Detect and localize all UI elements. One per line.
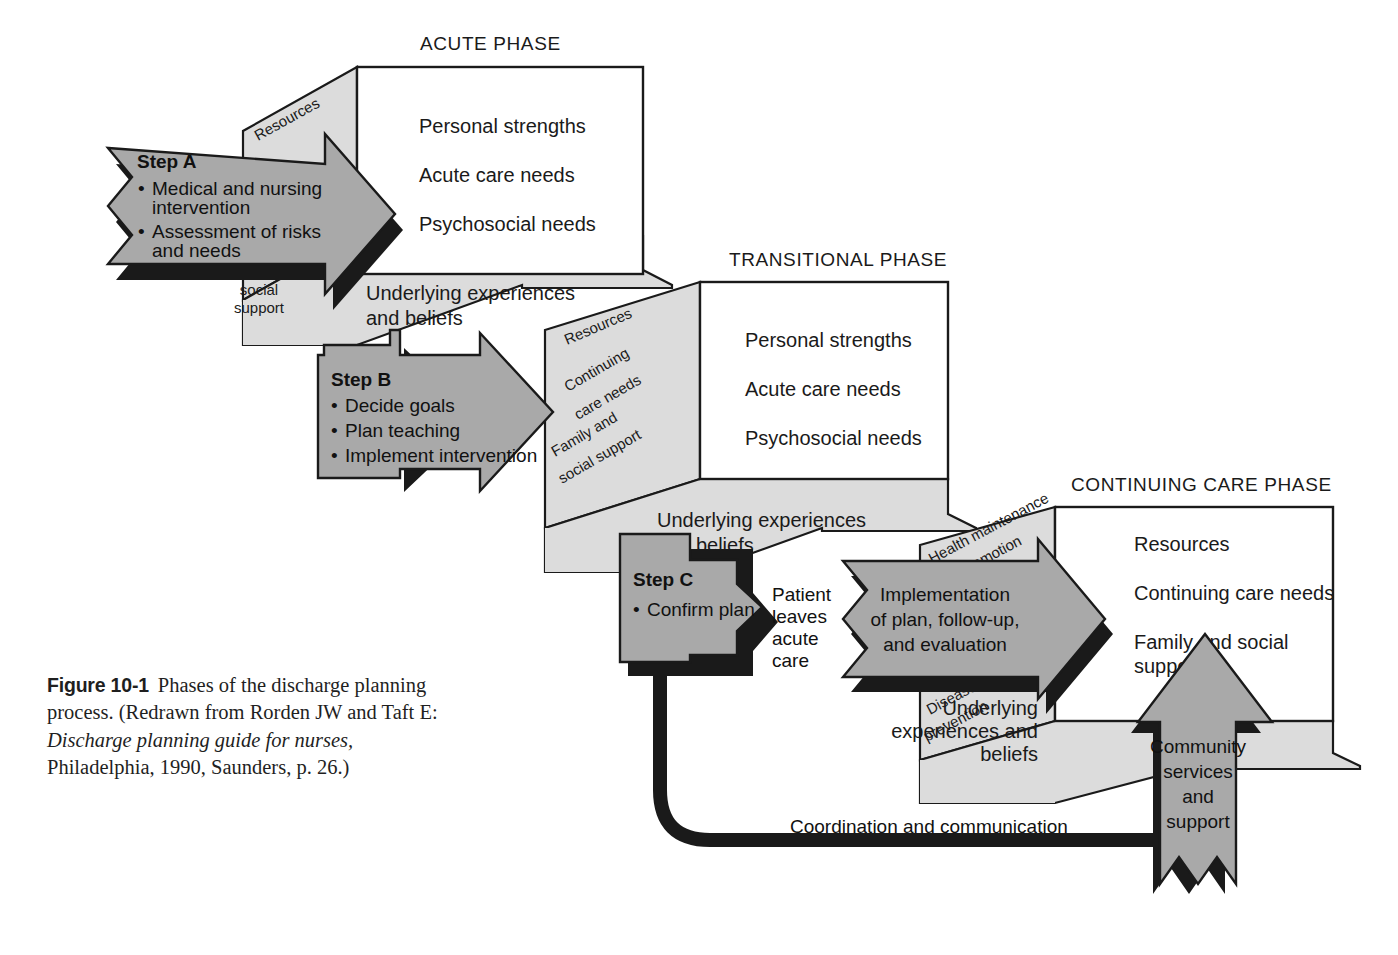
transitional-bottom-label-0: Underlying experiences xyxy=(657,509,866,531)
acute-side-label-support: support xyxy=(234,299,285,316)
transitional-item-1: Acute care needs xyxy=(745,378,901,400)
implementation-line-2: and evaluation xyxy=(883,634,1007,655)
acute-bottom-label-1: and beliefs xyxy=(366,307,463,329)
step-b-bullet-2: • xyxy=(331,445,338,466)
step-a-bullet-1: • xyxy=(138,221,145,242)
community-line-2: and xyxy=(1182,786,1214,807)
patient-leaves-line-0: Patient xyxy=(772,584,832,605)
step-b-arrow-group: Step B • Decide goals • Plan teaching • … xyxy=(318,330,553,492)
step-b-item-0: Decide goals xyxy=(345,395,455,416)
step-c-item-0: Confirm plan xyxy=(647,599,755,620)
acute-item-2: Psychosocial needs xyxy=(419,213,596,235)
implementation-line-0: Implementation xyxy=(880,584,1010,605)
figure-number: Figure 10-1 xyxy=(47,674,149,696)
continuing-phase-title: CONTINUING CARE PHASE xyxy=(1071,474,1332,495)
patient-leaves-line-1: leaves xyxy=(772,606,827,627)
phase-transitional: TRANSITIONAL PHASE Personal strengths Ac… xyxy=(545,249,976,572)
step-b-bullet-0: • xyxy=(331,395,338,416)
community-line-0: Community xyxy=(1150,736,1247,757)
acute-phase-title: ACUTE PHASE xyxy=(420,33,561,54)
step-c-title: Step C xyxy=(633,569,693,590)
implementation-line-1: of plan, follow-up, xyxy=(871,609,1020,630)
step-a-bullet-0: • xyxy=(138,178,145,199)
caption-text-part2: Philadelphia, 1990, Saunders, p. 26.) xyxy=(47,756,349,778)
continuing-item-0: Resources xyxy=(1134,533,1230,555)
transitional-item-0: Personal strengths xyxy=(745,329,912,351)
figure-caption: Figure 10-1Phases of the discharge plann… xyxy=(47,672,452,781)
step-c-bullet-0: • xyxy=(633,599,640,620)
acute-item-0: Personal strengths xyxy=(419,115,586,137)
continuing-item-1: Continuing care needs xyxy=(1134,582,1334,604)
figure-10-1: ACUTE PHASE Personal strengths Acute car… xyxy=(0,0,1398,955)
coordination-label: Coordination and communication xyxy=(790,816,1068,837)
continuing-bottom-label-2: beliefs xyxy=(980,743,1038,765)
transitional-item-2: Psychosocial needs xyxy=(745,427,922,449)
step-a-item-0: Medical and nursing xyxy=(152,178,322,199)
community-line-3: support xyxy=(1166,811,1230,832)
step-a-item-2: Assessment of risks xyxy=(152,221,321,242)
step-a-item-1: intervention xyxy=(152,197,250,218)
acute-bottom-label-0: Underlying experiences xyxy=(366,282,575,304)
patient-leaves-line-3: care xyxy=(772,650,809,671)
step-b-bullet-1: • xyxy=(331,420,338,441)
discharge-planning-diagram: ACUTE PHASE Personal strengths Acute car… xyxy=(0,0,1398,955)
community-line-1: services xyxy=(1163,761,1233,782)
step-a-title: Step A xyxy=(137,151,197,172)
step-a-item-3: and needs xyxy=(152,240,241,261)
caption-source-title: Discharge planning guide for nurses, xyxy=(47,729,353,751)
step-b-item-2: Implement intervention xyxy=(345,445,537,466)
continuing-bottom-panel-front xyxy=(920,760,1055,803)
step-b-item-1: Plan teaching xyxy=(345,420,460,441)
step-b-title: Step B xyxy=(331,369,391,390)
acute-item-1: Acute care needs xyxy=(419,164,575,186)
transitional-phase-title: TRANSITIONAL PHASE xyxy=(729,249,947,270)
acute-side-label-social: social xyxy=(240,281,278,298)
patient-leaves-line-2: acute xyxy=(772,628,818,649)
